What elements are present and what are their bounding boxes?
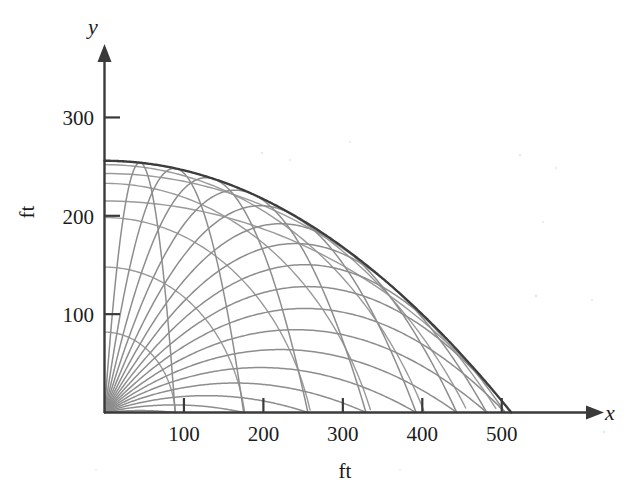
plot-svg: 100200300400500 100200300 y x ft ft (0, 0, 630, 491)
y-tick-label-100: 100 (63, 303, 95, 327)
projectile-envelope-figure: 100200300400500 100200300 y x ft ft (0, 0, 630, 491)
x-tick-label-500: 500 (486, 422, 518, 446)
x-axis-name-label: x (604, 400, 615, 425)
y-tick-label-300: 300 (63, 106, 95, 130)
x-tick-label-400: 400 (407, 422, 439, 446)
y-tick-label-200: 200 (63, 205, 95, 229)
x-tick-label-100: 100 (168, 422, 200, 446)
y-axis-unit-label: ft (15, 205, 39, 218)
x-axis-unit-label: ft (339, 459, 352, 483)
x-tick-label-300: 300 (327, 422, 359, 446)
y-axis-name-label: y (86, 14, 98, 39)
x-tick-label-200: 200 (248, 422, 280, 446)
